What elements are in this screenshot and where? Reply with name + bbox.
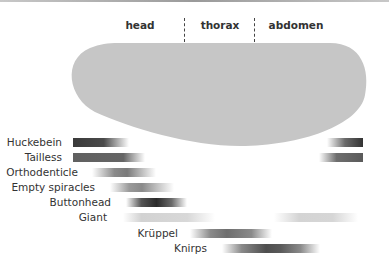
gene-label: Empty spiracles — [11, 181, 95, 193]
expression-bar — [110, 183, 174, 192]
region-label-head: head — [125, 19, 154, 31]
expression-bar — [274, 213, 358, 222]
expression-bar — [73, 153, 145, 162]
region-divider — [184, 18, 185, 42]
gene-label: Orthodenticle — [6, 166, 78, 178]
region-label-thorax: thorax — [201, 19, 240, 31]
expression-bar — [319, 153, 363, 162]
gene-label: Tailless — [25, 151, 62, 163]
gene-label: Huckebein — [7, 136, 62, 148]
region-label-abdomen: abdomen — [269, 19, 324, 31]
expression-bar — [92, 168, 156, 177]
gene-label: Krüppel — [137, 227, 178, 239]
expression-bar — [327, 138, 363, 147]
expression-bar — [190, 229, 272, 238]
gene-label: Giant — [79, 211, 107, 223]
expression-bar — [73, 138, 129, 147]
expression-bar — [123, 213, 215, 222]
gene-label: Knirps — [174, 242, 207, 254]
expression-bar — [222, 244, 320, 253]
region-divider — [254, 18, 255, 42]
gene-label: Buttonhead — [50, 196, 111, 208]
expression-bar — [126, 198, 187, 207]
